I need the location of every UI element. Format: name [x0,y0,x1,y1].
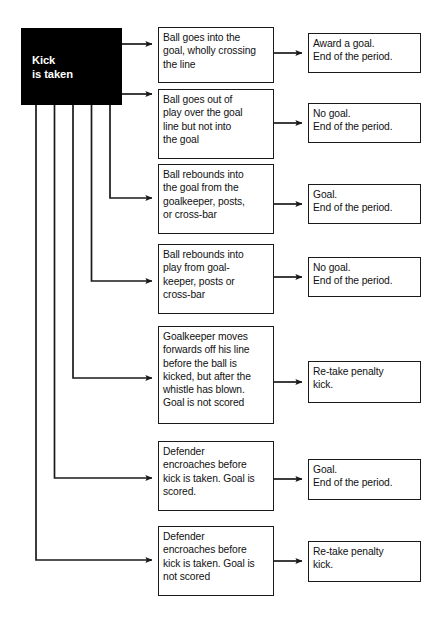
condition-node-c7[interactable]: Defender encroaches before kick is taken… [158,526,274,596]
connector-start-to-c7 [36,105,152,560]
outcome-node-o1[interactable]: Award a goal. End of the period. [308,33,421,73]
condition-node-c1[interactable]: Ball goes into the goal, wholly crossing… [158,27,274,83]
condition-node-label: Ball rebounds into the goal from the goa… [163,169,245,220]
outcome-node-o7[interactable]: Re-take penalty kick. [308,541,421,582]
condition-node-label: Goalkeeper moves forwards off his line b… [163,331,251,408]
connector-start-to-c3 [110,105,152,198]
outcome-node-label: No goal. End of the period. [313,262,393,286]
condition-node-label: Ball goes out of play over the goal line… [163,94,242,145]
outcome-node-label: Goal. End of the period. [313,464,393,488]
start-node-label: Kick is taken [21,53,73,81]
condition-node-label: Ball goes into the goal, wholly crossing… [163,32,256,70]
condition-node-c6[interactable]: Defender encroaches before kick is taken… [158,441,274,511]
condition-node-label: Defender encroaches before kick is taken… [163,531,255,582]
outcome-node-o4[interactable]: No goal. End of the period. [308,257,421,297]
outcome-node-o6[interactable]: Goal. End of the period. [308,459,421,500]
outcome-node-label: Goal. End of the period. [313,189,393,213]
condition-node-c4[interactable]: Ball rebounds into play from goal- keepe… [158,244,274,314]
outcome-node-label: Award a goal. End of the period. [313,38,393,62]
outcome-node-label: Re-take penalty kick. [313,366,384,390]
condition-node-c2[interactable]: Ball goes out of play over the goal line… [158,89,274,159]
condition-node-label: Ball rebounds into play from goal- keepe… [163,249,244,300]
flowchart-canvas: Kick is taken Ball goes into the goal, w… [0,0,442,620]
outcome-node-o3[interactable]: Goal. End of the period. [308,184,421,224]
connector-start-to-c4 [92,105,153,281]
condition-node-c3[interactable]: Ball rebounds into the goal from the goa… [158,164,274,234]
top-rule-decoration [0,0,442,4]
connector-start-to-c6 [55,105,153,478]
start-node-kick-is-taken[interactable]: Kick is taken [21,28,122,105]
condition-node-c5[interactable]: Goalkeeper moves forwards off his line b… [158,326,274,424]
outcome-node-o2[interactable]: No goal. End of the period. [308,103,421,143]
condition-node-label: Defender encroaches before kick is taken… [163,446,255,497]
outcome-node-o5[interactable]: Re-take penalty kick. [308,361,421,403]
connector-start-to-c5 [73,105,152,378]
outcome-node-label: Re-take penalty kick. [313,546,384,570]
outcome-node-label: No goal. End of the period. [313,108,393,132]
